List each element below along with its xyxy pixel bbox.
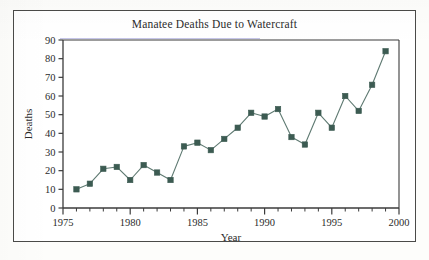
data-point-marker: [101, 166, 106, 171]
x-tick-label: 2000: [389, 217, 410, 228]
data-point-marker: [356, 108, 361, 113]
data-point-marker: [74, 187, 79, 192]
data-point-marker: [141, 162, 146, 167]
data-point-marker: [168, 177, 173, 182]
data-point-marker: [369, 82, 374, 87]
data-point-marker: [329, 125, 334, 130]
data-point-marker: [383, 49, 388, 54]
data-point-marker: [154, 170, 159, 175]
x-axis-title: Year: [221, 231, 242, 243]
figure-frame: Manatee Deaths Due to Watercraft 0102030…: [13, 10, 416, 242]
data-point-marker: [316, 110, 321, 115]
y-tick-label: 20: [45, 165, 56, 176]
data-point-marker: [208, 147, 213, 152]
y-axis-title: Deaths: [22, 109, 34, 140]
y-tick-label: 80: [45, 53, 56, 64]
series-line: [76, 51, 385, 189]
data-point-marker: [289, 134, 294, 139]
data-point-marker: [114, 164, 119, 169]
x-tick-label: 1995: [321, 217, 342, 228]
x-tick-label: 1975: [53, 217, 74, 228]
y-tick-label: 0: [50, 203, 55, 214]
data-point-marker: [235, 125, 240, 130]
data-point-marker: [262, 114, 267, 119]
y-tick-label: 10: [45, 184, 56, 195]
data-point-marker: [248, 110, 253, 115]
data-point-marker: [302, 142, 307, 147]
data-point-marker: [343, 93, 348, 98]
y-tick-label: 40: [45, 128, 56, 139]
x-tick-label: 1990: [254, 217, 275, 228]
y-tick-label: 70: [45, 72, 56, 83]
data-point-marker: [222, 136, 227, 141]
y-tick-label: 30: [45, 147, 56, 158]
y-tick-label: 90: [45, 35, 56, 46]
x-tick-label: 1985: [187, 217, 208, 228]
data-point-marker: [128, 177, 133, 182]
data-point-marker: [195, 140, 200, 145]
line-chart-plot: 0102030405060708090197519801985199019952…: [14, 11, 417, 243]
x-tick-label: 1980: [120, 217, 141, 228]
y-tick-label: 50: [45, 109, 56, 120]
data-point-marker: [181, 144, 186, 149]
data-point-marker: [275, 106, 280, 111]
data-point-marker: [87, 181, 92, 186]
y-tick-label: 60: [45, 91, 56, 102]
